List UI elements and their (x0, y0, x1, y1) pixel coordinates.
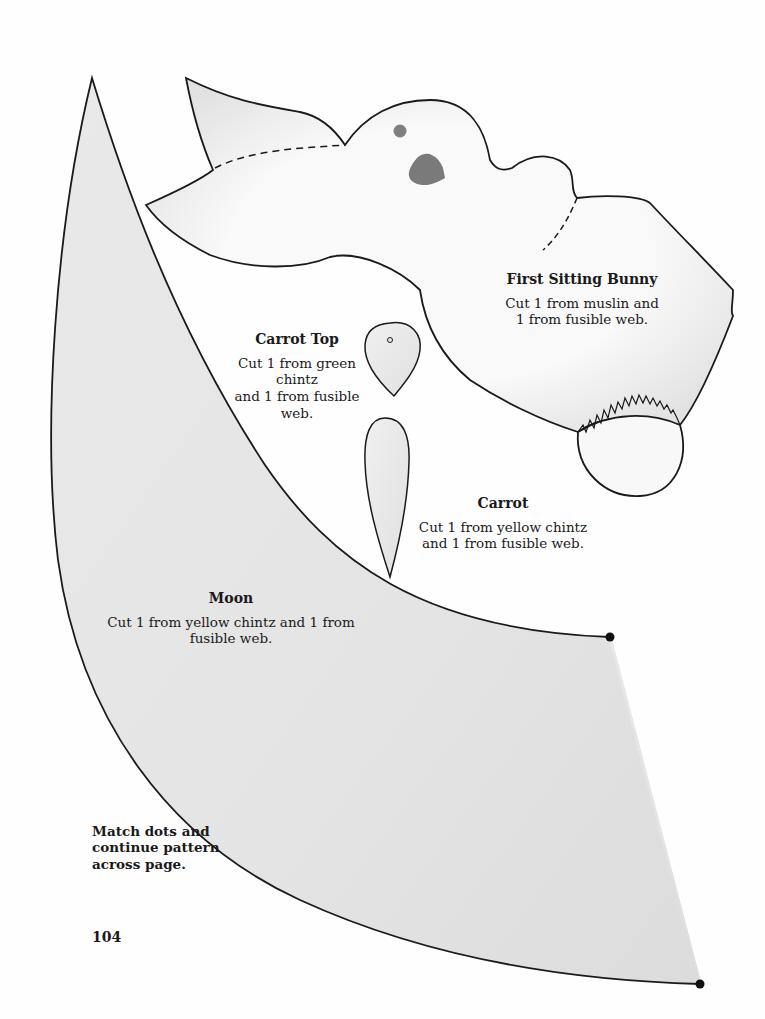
carrot-title: Carrot (408, 495, 598, 513)
moon-title: Moon (100, 590, 362, 608)
match-dots-note: Match dots and continue pattern across p… (92, 823, 220, 872)
bunny-label: First Sitting Bunny Cut 1 from muslin an… (482, 271, 682, 328)
carrot-top-label: Carrot Top Cut 1 from green chintz and 1… (218, 331, 376, 422)
match-dot-upper (606, 633, 615, 642)
carrot-top-instructions: Cut 1 from green chintz and 1 from fusib… (218, 355, 376, 423)
pattern-page: First Sitting Bunny Cut 1 from muslin an… (0, 0, 765, 1019)
moon-instructions: Cut 1 from yellow chintz and 1 from fusi… (100, 614, 362, 648)
bunny-title: First Sitting Bunny (482, 271, 682, 289)
match-dot-lower (696, 980, 705, 989)
bunny-instructions: Cut 1 from muslin and 1 from fusible web… (482, 295, 682, 329)
bunny-eye (394, 125, 407, 138)
page-number: 104 (92, 929, 121, 945)
carrot-instructions: Cut 1 from yellow chintz and 1 from fusi… (408, 519, 598, 553)
carrot-label: Carrot Cut 1 from yellow chintz and 1 fr… (408, 495, 598, 552)
carrot-top-title: Carrot Top (218, 331, 376, 349)
moon-label: Moon Cut 1 from yellow chintz and 1 from… (100, 590, 362, 647)
carrot-piece (365, 418, 409, 577)
